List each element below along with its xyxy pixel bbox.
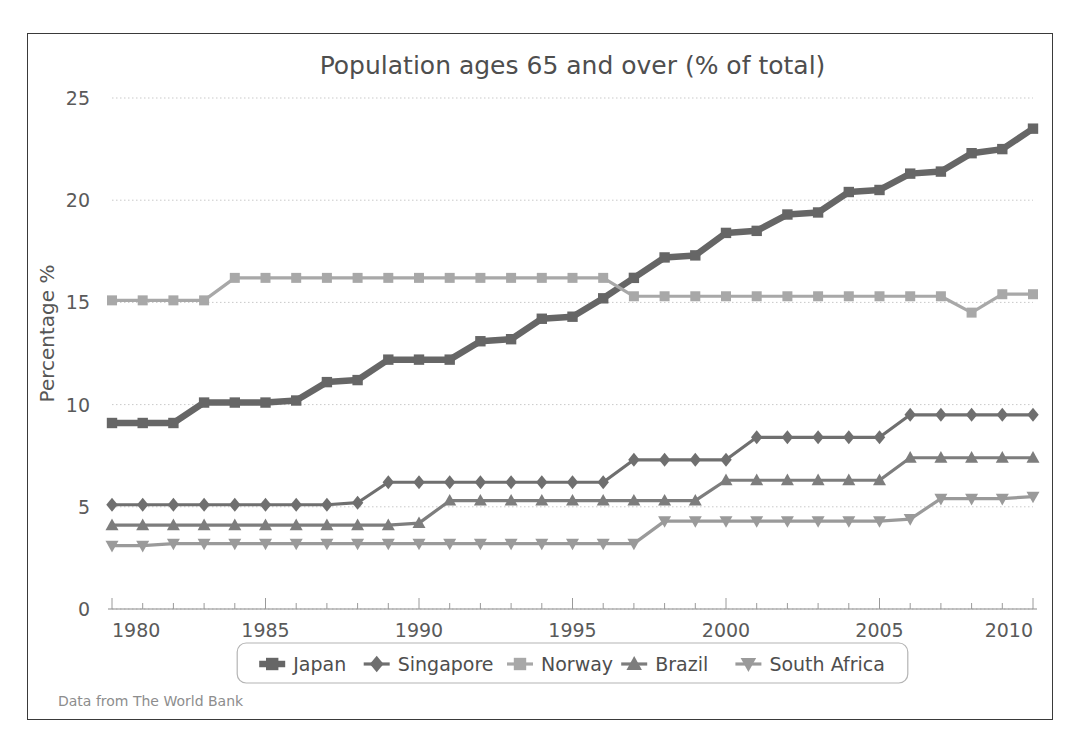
data-point-marker	[199, 397, 209, 407]
data-point-marker	[721, 291, 731, 301]
x-tick-label: 1995	[548, 619, 596, 641]
data-point-marker	[997, 408, 1008, 422]
data-point-marker	[1028, 289, 1038, 299]
chart-canvas: Population ages 65 and over (% of total)…	[28, 34, 1054, 721]
data-point-marker	[1027, 408, 1038, 422]
data-point-marker	[690, 453, 701, 467]
data-point-marker	[168, 295, 178, 305]
data-point-marker	[230, 397, 240, 407]
data-point-marker	[414, 354, 424, 364]
data-point-marker	[383, 354, 393, 364]
data-point-marker	[567, 312, 577, 322]
data-point-marker	[629, 291, 639, 301]
data-point-marker	[659, 252, 669, 262]
data-point-marker	[107, 418, 117, 428]
data-point-marker	[475, 336, 485, 346]
data-point-marker	[721, 228, 731, 238]
chart-title: Population ages 65 and over (% of total)	[320, 51, 826, 80]
data-point-marker	[291, 273, 301, 283]
data-point-marker	[752, 291, 762, 301]
series-line	[112, 278, 1033, 313]
data-point-marker	[936, 291, 946, 301]
data-point-marker	[875, 291, 885, 301]
data-point-marker	[321, 498, 332, 512]
data-point-marker	[843, 430, 854, 444]
y-tick-label: 15	[66, 291, 90, 313]
source-note: Data from The World Bank	[58, 693, 244, 709]
x-tick-label: 1985	[241, 619, 289, 641]
data-point-marker	[966, 408, 977, 422]
data-point-marker	[290, 498, 301, 512]
data-point-marker	[199, 295, 209, 305]
data-point-marker	[506, 334, 516, 344]
x-tick-label: 2010	[985, 619, 1033, 641]
data-point-marker	[352, 375, 362, 385]
data-point-marker	[966, 148, 976, 158]
data-point-marker	[659, 453, 670, 467]
series-line	[112, 458, 1033, 525]
data-point-marker	[138, 295, 148, 305]
data-point-marker	[137, 498, 148, 512]
legend-label: Norway	[541, 653, 613, 675]
y-tick-label: 10	[66, 394, 90, 416]
data-point-marker	[874, 185, 884, 195]
legend-label: Singapore	[398, 653, 494, 675]
data-point-marker	[537, 273, 547, 283]
data-point-marker	[168, 498, 179, 512]
data-point-marker	[505, 475, 516, 489]
data-point-marker	[291, 395, 301, 405]
data-point-marker	[905, 168, 915, 178]
data-point-marker	[936, 166, 946, 176]
data-point-marker	[567, 475, 578, 489]
data-point-marker	[107, 295, 117, 305]
legend-label: Japan	[292, 653, 346, 675]
data-point-marker	[568, 273, 578, 283]
data-point-marker	[322, 273, 332, 283]
y-axis-title: Percentage %	[35, 265, 59, 403]
data-point-marker	[353, 273, 363, 283]
data-point-marker	[752, 226, 762, 236]
y-tick-label: 0	[78, 598, 90, 620]
data-point-marker	[444, 475, 455, 489]
data-point-marker	[229, 498, 240, 512]
figure-frame: Population ages 65 and over (% of total)…	[27, 33, 1053, 720]
data-point-marker	[844, 187, 854, 197]
legend-marker-square-icon	[266, 658, 278, 670]
data-point-marker	[537, 314, 547, 324]
data-point-marker	[598, 293, 608, 303]
data-point-marker	[598, 273, 608, 283]
data-point-marker	[322, 377, 332, 387]
data-point-marker	[812, 430, 823, 444]
data-point-marker	[813, 291, 823, 301]
data-point-marker	[997, 289, 1007, 299]
legend-label: South Africa	[769, 653, 884, 675]
data-point-marker	[230, 273, 240, 283]
data-point-marker	[383, 475, 394, 489]
data-point-marker	[1028, 123, 1038, 133]
data-point-marker	[690, 291, 700, 301]
x-tick-label: 2005	[855, 619, 903, 641]
data-point-marker	[690, 250, 700, 260]
data-point-marker	[138, 418, 148, 428]
data-point-marker	[261, 273, 271, 283]
data-point-marker	[782, 430, 793, 444]
data-point-marker	[413, 475, 424, 489]
data-point-marker	[660, 291, 670, 301]
data-point-marker	[475, 475, 486, 489]
data-point-marker	[475, 273, 485, 283]
x-tick-label: 2000	[702, 619, 750, 641]
series-line	[112, 415, 1033, 505]
legend-marker-square-icon	[514, 658, 526, 670]
series-norway	[107, 273, 1038, 318]
data-point-marker	[260, 397, 270, 407]
data-point-marker	[997, 144, 1007, 154]
y-tick-label: 5	[78, 496, 90, 518]
data-point-marker	[168, 418, 178, 428]
data-point-marker	[106, 498, 117, 512]
data-point-marker	[352, 496, 363, 510]
data-point-marker	[198, 498, 209, 512]
data-point-marker	[905, 291, 915, 301]
data-point-marker	[445, 273, 455, 283]
x-tick-label: 1990	[395, 619, 443, 641]
y-tick-label: 25	[66, 87, 90, 109]
